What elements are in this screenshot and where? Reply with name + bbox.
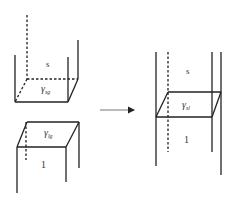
phase-label-solid-right: s [186,66,190,76]
left-top-edge [17,122,27,147]
diagram-canvas: s γsg γlg 1 s γsl 1 [0,0,235,204]
gamma-sl-label: γsl [182,99,190,111]
gamma-sg-label: γsg [41,83,50,95]
interface-left-edge [156,92,168,117]
interface-right-edge [212,92,221,117]
right-top-edge [66,122,79,147]
phase-label-liquid-left: 1 [41,159,46,170]
phase-label-liquid-right: 1 [184,134,189,145]
hidden-left-bottom-edge [15,79,27,102]
phase-label-solid-left: s [46,59,50,69]
right-bottom-edge [68,79,78,102]
gamma-lg-label: γlg [44,127,53,139]
